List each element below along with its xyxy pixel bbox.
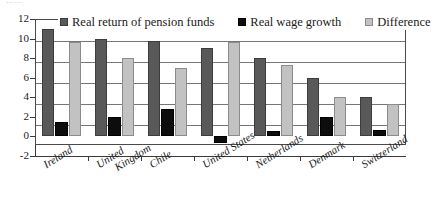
legend-item: Real wage growth <box>238 15 341 29</box>
chart-legend: Real return of pension fundsReal wage gr… <box>58 14 433 30</box>
dark-gray-swatch <box>60 18 68 26</box>
y-tick-mark <box>30 58 35 59</box>
light-gray-swatch <box>365 18 373 26</box>
y-tick-mark <box>30 39 35 40</box>
y-tick-mark <box>30 78 35 79</box>
y-tick-mark <box>30 136 35 137</box>
y-tick-mark <box>30 156 35 157</box>
y-tick-mark <box>30 19 35 20</box>
x-tick-label: UnitedKingdom <box>94 131 153 180</box>
x-tick-label: Switzerland <box>359 132 409 170</box>
y-tick-mark <box>30 97 35 98</box>
x-tick-label: United States <box>200 129 256 170</box>
legend-label: Real return of pension funds <box>72 15 214 29</box>
legend-label: Real wage growth <box>250 15 341 29</box>
legend-item: Real return of pension funds <box>60 15 214 29</box>
x-tick-label: Netherlands <box>253 132 305 171</box>
y-tick-mark <box>30 117 35 118</box>
x-tick-label: Denmark <box>306 138 347 170</box>
legend-label: Difference <box>377 15 430 29</box>
x-tick-label: Ireland <box>41 143 74 170</box>
legend-item: Difference <box>365 15 430 29</box>
black-swatch <box>238 18 246 26</box>
